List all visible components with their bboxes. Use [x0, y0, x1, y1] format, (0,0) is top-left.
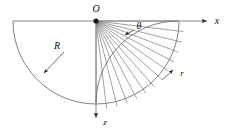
polar-half-disc-diagram: x z O R θ r — [0, 0, 228, 133]
inner-arc-group — [96, 21, 178, 103]
origin-point-marker — [93, 18, 98, 23]
radial-leader-arrow — [162, 70, 173, 80]
origin-group: O — [92, 3, 99, 23]
origin-label: O — [92, 3, 99, 14]
radius-label: R — [53, 40, 60, 51]
inner-radial-arc — [96, 21, 178, 103]
radial-label: r — [180, 68, 184, 78]
figure-container: x z O R θ r — [0, 0, 228, 133]
angle-label: θ — [137, 20, 142, 31]
z-axis-label: z — [102, 117, 107, 127]
radius-leader-arrow — [44, 52, 64, 73]
radial-rays-group — [96, 21, 183, 108]
radial-annotation-group: r — [162, 68, 184, 80]
radius-annotation-group: R — [44, 40, 64, 73]
radial-ray — [96, 21, 117, 106]
x-axis-label: x — [214, 15, 220, 26]
